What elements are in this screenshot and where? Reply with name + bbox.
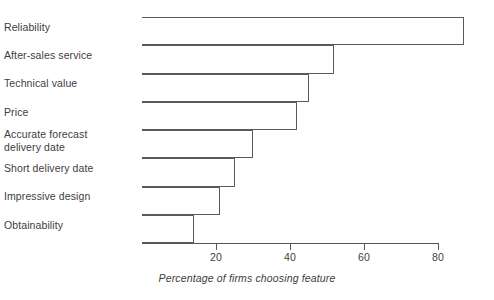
x-axis-ticks: 20 40 60 80 (142, 243, 494, 263)
bar-price (142, 102, 297, 130)
category-label-price: Price (4, 106, 125, 119)
category-label-after-sales-service: After-sales service (4, 49, 125, 62)
category-label-short-delivery-date: Short delivery date (4, 162, 125, 175)
x-tick-label-20: 20 (210, 251, 222, 263)
bar-technical-value (142, 74, 309, 102)
bar-obtainability (142, 215, 194, 243)
category-label-technical-value: Technical value (4, 77, 125, 90)
bar-accurate-forecast-delivery-date (142, 130, 253, 158)
x-tick-label-40: 40 (284, 251, 296, 263)
category-label-accurate-forecast-delivery-date: Accurate forecast delivery date (4, 128, 125, 153)
x-axis-title: Percentage of firms choosing feature (0, 272, 494, 284)
x-tick-label-80: 80 (432, 251, 444, 263)
plot-area (142, 17, 494, 243)
x-tick-mark-40 (290, 243, 291, 250)
category-axis-labels: Reliability After-sales service Technica… (0, 17, 133, 243)
bar-chart: Reliability After-sales service Technica… (0, 0, 494, 300)
category-label-obtainability: Obtainability (4, 219, 125, 232)
category-label-impressive-design: Impressive design (4, 190, 125, 203)
bar-after-sales-service (142, 45, 334, 73)
x-tick-label-60: 60 (358, 251, 370, 263)
category-label-reliability: Reliability (4, 21, 125, 34)
bar-impressive-design (142, 187, 220, 215)
x-tick-mark-20 (216, 243, 217, 250)
bar-short-delivery-date (142, 158, 235, 186)
bar-reliability (142, 17, 464, 45)
x-tick-mark-80 (438, 243, 439, 250)
x-tick-mark-60 (364, 243, 365, 250)
